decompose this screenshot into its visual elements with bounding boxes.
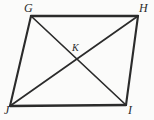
diagonal-GI	[31, 16, 126, 105]
point-label-K: K	[72, 43, 79, 53]
figure-canvas	[0, 0, 154, 120]
side-HI	[126, 16, 138, 105]
vertex-label-J: J	[4, 104, 9, 116]
vertex-label-G: G	[24, 2, 33, 14]
side-IJ	[10, 105, 126, 106]
diagonal-HJ	[10, 16, 138, 106]
vertex-label-H: H	[139, 2, 148, 14]
geometry-figure: G H I J K	[0, 0, 154, 120]
vertex-label-I: I	[128, 104, 132, 116]
